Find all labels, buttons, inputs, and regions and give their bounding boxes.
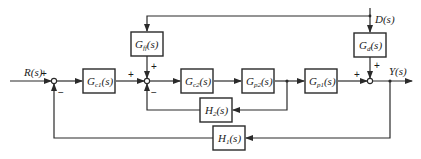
block-h2: H2(s) <box>200 98 232 122</box>
svg-text:H2(s): H2(s) <box>204 104 228 118</box>
svg-text:Gd(s): Gd(s) <box>359 39 382 53</box>
summing-junction-1 <box>51 78 56 83</box>
svg-text:H1(s): H1(s) <box>217 132 241 146</box>
summing-junction-3 <box>367 78 372 83</box>
disturbance-signal-label: D(s) <box>374 13 395 26</box>
block-gd: Gd(s) <box>354 33 386 57</box>
branch-point-output <box>388 79 391 82</box>
block-gff: Gff(s) <box>131 32 163 56</box>
sign-sum3-disturbance: + <box>374 60 380 71</box>
sign-sum2-input: + <box>128 69 134 80</box>
summing-junction-2 <box>144 78 149 83</box>
sign-sum2-feedback: − <box>151 87 157 98</box>
sign-sum1-input: + <box>41 68 47 79</box>
branch-point-disturbance <box>369 15 372 18</box>
block-gp2: Gp2(s) <box>242 69 274 93</box>
block-h1: H1(s) <box>213 126 245 150</box>
feedforward-line <box>147 16 370 31</box>
input-signal-label: R(s) <box>23 66 43 79</box>
sign-sum3-input: + <box>354 69 360 80</box>
block-gc2: Gc2(s) <box>181 69 213 93</box>
block-gp1: Gp1(s) <box>305 69 337 93</box>
output-signal-label: Y(s) <box>389 65 407 78</box>
sign-sum2-feedforward: + <box>151 61 157 72</box>
branch-point-inner <box>285 79 288 82</box>
sign-sum1-feedback: − <box>58 87 64 98</box>
block-gc1: Gc1(s) <box>83 69 115 93</box>
svg-text:Gff(s): Gff(s) <box>135 38 159 52</box>
block-diagram: Gc1(s) Gff(s) Gc2(s) Gp2(s) Gp1(s) Gd(s)… <box>0 0 421 159</box>
